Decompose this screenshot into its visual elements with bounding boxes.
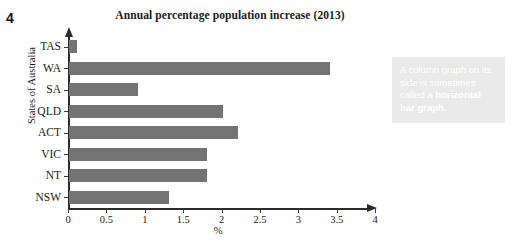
bar-chart: Annual percentage population increase (2… <box>0 0 400 241</box>
bar-row: ACT <box>68 122 375 144</box>
bar <box>69 62 330 75</box>
bar-row: VIC <box>68 144 375 166</box>
x-axis-tick-label: 1 <box>142 214 147 225</box>
category-label: QLD <box>37 105 61 117</box>
x-axis-tick <box>298 208 299 213</box>
x-axis-tick-label: 1.5 <box>177 214 190 225</box>
plot-area: TASWASAQLDACTVICNTNSW 00.511.522.533.54 <box>68 36 375 208</box>
x-axis-title: % <box>68 225 368 236</box>
callout-note: A column graph on its side is sometimes … <box>392 57 505 123</box>
category-label: NSW <box>35 191 61 203</box>
bar <box>69 126 238 139</box>
bar <box>69 83 138 96</box>
x-axis-tick-label: 4 <box>373 214 378 225</box>
x-axis-tick-label: 2 <box>219 214 224 225</box>
category-label: WA <box>43 62 61 74</box>
bar <box>69 105 223 118</box>
y-axis-tick <box>64 68 68 69</box>
bar <box>69 169 207 182</box>
x-axis-tick-label: 0 <box>65 214 70 225</box>
y-axis-tick <box>64 90 68 91</box>
bar <box>69 40 77 53</box>
chart-title: Annual percentage population increase (2… <box>80 9 380 21</box>
x-axis-tick-label: 2.5 <box>253 214 266 225</box>
bar <box>69 191 169 204</box>
x-axis-line <box>68 208 368 210</box>
y-axis-tick <box>64 133 68 134</box>
category-label: NT <box>46 169 61 181</box>
y-axis-tick <box>64 154 68 155</box>
x-axis-tick-label: 0.5 <box>100 214 113 225</box>
x-axis-tick <box>183 208 184 213</box>
y-axis-tick <box>64 47 68 48</box>
y-axis-title: States of Australia <box>26 21 37 151</box>
x-axis-tick <box>145 208 146 213</box>
y-axis-tick <box>64 111 68 112</box>
bar-row: NT <box>68 165 375 187</box>
y-axis-tick <box>64 197 68 198</box>
category-label: TAS <box>40 40 61 52</box>
x-axis-tick <box>375 208 376 213</box>
category-label: SA <box>46 83 61 95</box>
x-axis-tick <box>106 208 107 213</box>
bar <box>69 148 207 161</box>
bar-row: QLD <box>68 101 375 123</box>
x-axis-tick <box>68 208 69 213</box>
bar-row: SA <box>68 79 375 101</box>
bar-row: NSW <box>68 187 375 209</box>
x-axis-tick <box>260 208 261 213</box>
x-axis-tick <box>222 208 223 213</box>
category-label: ACT <box>38 126 61 138</box>
category-label: VIC <box>41 148 61 160</box>
bar-row: WA <box>68 58 375 80</box>
x-axis-tick <box>337 208 338 213</box>
x-axis-tick-label: 3 <box>296 214 301 225</box>
callout-text-after: . <box>444 102 447 113</box>
bar-row: TAS <box>68 36 375 58</box>
y-axis-tick <box>64 176 68 177</box>
x-axis-tick-label: 3.5 <box>330 214 343 225</box>
